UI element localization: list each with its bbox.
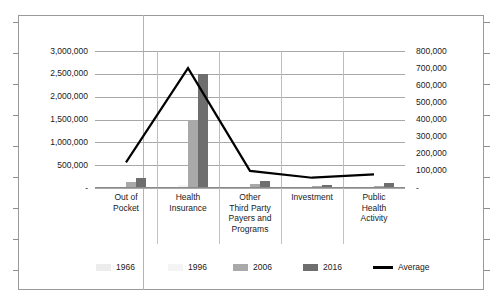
frame-tick-right — [484, 270, 490, 271]
legend-color-swatch — [96, 264, 111, 271]
legend-label: 1996 — [188, 263, 207, 272]
x-category-label: Investment — [281, 192, 343, 203]
legend-color-swatch — [233, 264, 248, 271]
x-category-label: HealthInsurance — [157, 192, 219, 213]
frame-tick-left — [13, 53, 19, 54]
frame-tick-right — [484, 22, 490, 23]
x-category-label-line: Health — [157, 192, 219, 203]
legend-item-1966[interactable]: 1966 — [96, 263, 135, 272]
x-category-label: OtherThird PartyPayers andPrograms — [219, 192, 281, 234]
right-axis-tick-label: 400,000 — [416, 115, 474, 124]
x-category-label: Out ofPocket — [95, 192, 157, 213]
legend-label: 1966 — [116, 263, 135, 272]
legend-color-swatch — [168, 264, 183, 271]
right-axis-tick-label: - — [416, 184, 474, 193]
legend-label: 2006 — [253, 263, 272, 272]
x-category-label-line: Public — [343, 192, 405, 203]
plot-area — [95, 51, 405, 188]
left-axis-tick-label: 3,000,000 — [30, 47, 88, 56]
right-axis-tick-label: 800,000 — [416, 47, 474, 56]
frame-tick-right — [484, 146, 490, 147]
right-axis-tick-label: 200,000 — [416, 149, 474, 158]
legend-item-1996[interactable]: 1996 — [168, 263, 207, 272]
right-axis-tick-label: 500,000 — [416, 98, 474, 107]
left-axis-tick-label: 1,500,000 — [30, 115, 88, 124]
x-category-label-line: Out of — [95, 192, 157, 203]
left-axis-tick-label: 500,000 — [30, 161, 88, 170]
gridline — [95, 188, 405, 189]
right-axis-tick-label: 600,000 — [416, 81, 474, 90]
x-category-label-line: Activity — [343, 213, 405, 224]
left-axis-tick-label: - — [30, 184, 88, 193]
frame-tick-left — [13, 208, 19, 209]
frame-tick-right — [484, 239, 490, 240]
legend-label: Average — [398, 263, 430, 272]
frame-tick-right — [484, 177, 490, 178]
right-axis-tick-label: 700,000 — [416, 64, 474, 73]
legend-color-swatch — [303, 264, 318, 271]
x-category-label-line: Programs — [219, 224, 281, 235]
frame-tick-left — [13, 84, 19, 85]
right-axis-tick-label: 100,000 — [416, 166, 474, 175]
legend-item-2006[interactable]: 2006 — [233, 263, 272, 272]
x-axis-category-labels: Out ofPocketHealthInsuranceOtherThird Pa… — [95, 192, 405, 244]
frame-tick-right — [484, 53, 490, 54]
chart-figure: -500,0001,000,0001,500,0002,000,0002,500… — [0, 0, 502, 303]
frame-tick-left — [13, 146, 19, 147]
frame-tick-left — [13, 177, 19, 178]
legend-label: 2016 — [323, 263, 342, 272]
x-category-label-line: Payers and — [219, 213, 281, 224]
right-axis-tick-label: 300,000 — [416, 132, 474, 141]
left-axis-tick-label: 2,500,000 — [30, 69, 88, 78]
x-category-label-line: Health — [343, 203, 405, 214]
x-category-label-line: Insurance — [157, 203, 219, 214]
frame-tick-left — [13, 115, 19, 116]
frame-tick-right — [484, 208, 490, 209]
chart-legend: 1966199620062016Average — [18, 258, 484, 282]
average-line-series — [95, 51, 405, 188]
frame-tick-left — [13, 22, 19, 23]
frame-tick-left — [13, 239, 19, 240]
left-axis-tick-label: 1,000,000 — [30, 138, 88, 147]
x-category-label-line: Pocket — [95, 203, 157, 214]
x-axis-baseline — [95, 187, 405, 188]
x-category-label: PublicHealthActivity — [343, 192, 405, 224]
x-category-label-line: Investment — [281, 192, 343, 203]
x-category-label-line: Third Party — [219, 203, 281, 214]
legend-line-swatch — [373, 266, 393, 269]
x-category-label-line: Other — [219, 192, 281, 203]
frame-tick-right — [484, 115, 490, 116]
frame-tick-right — [484, 84, 490, 85]
legend-item-average[interactable]: Average — [373, 263, 430, 272]
legend-item-2016[interactable]: 2016 — [303, 263, 342, 272]
left-axis-tick-label: 2,000,000 — [30, 92, 88, 101]
